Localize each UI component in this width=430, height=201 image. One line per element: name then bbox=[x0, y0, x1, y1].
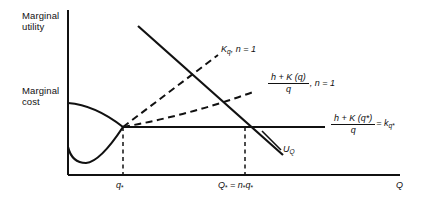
curve-uq bbox=[138, 26, 283, 155]
leader-line-uq bbox=[262, 131, 281, 150]
economics-cost-curve-figure: Marginal utility Marginal cost Q q* Q* =… bbox=[0, 0, 430, 201]
y-axis-label-line2: utility bbox=[22, 21, 44, 32]
k-star: * bbox=[392, 122, 395, 129]
x-tick-qstar-sub: * bbox=[121, 184, 124, 191]
y-axis-label-marginal-cost: Marginal cost bbox=[22, 85, 59, 107]
curve-label-uq: UQ bbox=[283, 144, 295, 156]
curve-label-avg-cost-star-tail: = kq* bbox=[376, 118, 395, 130]
fraction-numerator: h + K (q) bbox=[268, 72, 309, 84]
x-axis-label: Q bbox=[396, 180, 403, 191]
curve-label-avg-cost-q-tail: , n = 1 bbox=[310, 78, 335, 89]
curve-label-kq: Kq, n = 1 bbox=[221, 44, 256, 56]
fraction-star-denominator: q bbox=[331, 125, 375, 136]
equals-sign: = bbox=[376, 118, 384, 128]
x-tick-label-qstar: q* bbox=[116, 180, 124, 192]
curve-label-kq-rest: , n = 1 bbox=[231, 44, 256, 54]
x-tick-Qstar-tail-sub: * bbox=[250, 184, 253, 191]
fraction-avg-cost-q: h + K (q) q bbox=[268, 72, 309, 94]
plot-area bbox=[0, 0, 430, 201]
fraction-avg-cost-star: h + K (q*) q bbox=[331, 113, 375, 135]
x-tick-Qstar-main: Q bbox=[218, 180, 225, 190]
fraction-denominator: q bbox=[268, 84, 309, 95]
fraction-star-numerator: h + K (q*) bbox=[331, 113, 375, 125]
curve-label-avg-cost-q: h + K (q) q , n = 1 bbox=[267, 72, 335, 94]
curve-label-avg-cost-star: h + K (q*) q = kq* bbox=[330, 113, 395, 135]
curve-marginal-cost bbox=[68, 127, 123, 163]
y-axis-label-line1: Marginal bbox=[22, 10, 59, 21]
x-tick-label-Qstar: Q* = n*q* bbox=[218, 180, 253, 192]
x-tick-Qstar-rest: = n bbox=[228, 180, 243, 190]
curve-label-uq-sub: Q bbox=[290, 148, 295, 155]
curve-marginal-declining bbox=[68, 103, 123, 127]
y-axis-label-mc-line1: Marginal bbox=[22, 85, 59, 96]
x-axis-label-text: Q bbox=[396, 180, 403, 190]
y-axis-label-mc-line2: cost bbox=[22, 96, 40, 107]
y-axis-label-marginal-utility: Marginal utility bbox=[22, 10, 59, 32]
